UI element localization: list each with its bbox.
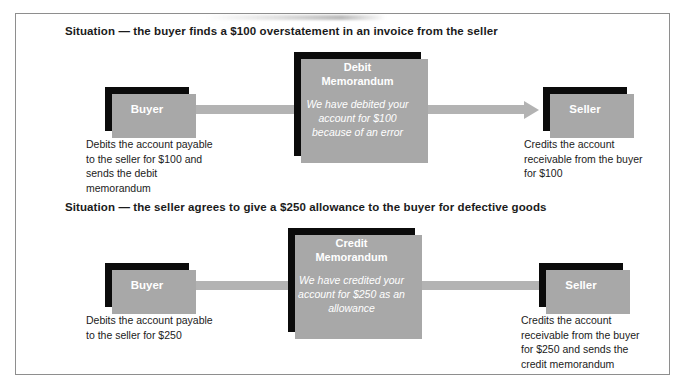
figure-frame: Situation — the buyer finds a $100 overs… [15,13,670,375]
memo-title-line2-2: Memorandum [315,251,387,265]
arrow-head-right-1 [524,101,539,119]
seller-box-2: Seller [539,263,623,307]
memo-title-line1-1: Debit [321,61,393,75]
memo-title-2: Credit Memorandum [315,237,387,264]
buyer-box-2: Buyer [105,263,189,307]
seller-caption-1: Credits the account receivable from the … [524,137,652,181]
seller-label-1: Seller [569,103,600,115]
debit-memorandum-box: Debit Memorandum We have debited your ac… [294,52,421,156]
memo-body-2: We have credited your account for $250 a… [296,273,407,315]
credit-memorandum-box: Credit Memorandum We have credited your … [288,228,415,332]
buyer-box-1: Buyer [105,87,189,131]
buyer-label-1: Buyer [131,103,164,115]
seller-label-2: Seller [565,279,596,291]
memo-title-1: Debit Memorandum [321,61,393,88]
buyer-caption-1: Debits the account payable to the seller… [86,137,214,195]
memo-title-line1-2: Credit [315,237,387,251]
buyer-caption-2: Debits the account payable to the seller… [86,313,214,342]
memo-body-1: We have debited your account for $100 be… [302,97,413,139]
situation-heading-1: Situation — the buyer finds a $100 overs… [65,25,498,37]
buyer-label-2: Buyer [131,279,164,291]
memo-title-line2-1: Memorandum [321,75,393,89]
scan-artifact [206,15,386,20]
seller-box-1: Seller [543,87,627,131]
situation-heading-2: Situation — the seller agrees to give a … [65,201,547,213]
seller-caption-2: Credits the account receivable from the … [521,313,649,371]
